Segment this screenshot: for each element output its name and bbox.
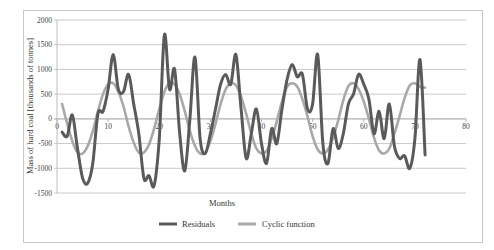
x-tick-label: 0: [55, 122, 59, 131]
x-tick-label: 80: [462, 122, 470, 131]
legend: Residuals Cyclic function: [159, 219, 315, 229]
y-tick-label: 0: [48, 114, 52, 123]
x-axis-title: Months: [209, 198, 235, 208]
y-tick-label: 500: [41, 90, 53, 99]
y-tick-label: -1000: [35, 164, 53, 173]
y-tick-label: 1000: [37, 65, 52, 74]
y-tick-label: -500: [38, 139, 52, 148]
y-axis-title: Mass of hard coal [thousands of tonnes]: [25, 38, 35, 174]
y-axis-ticks: 2000150010005000-500-1000-1500: [35, 16, 53, 198]
x-axis-ticks: 01020304050607080: [55, 119, 470, 131]
x-tick-label: 10: [104, 122, 112, 131]
legend-item-residuals[interactable]: Residuals: [159, 219, 215, 229]
y-tick-label: -1500: [35, 189, 53, 198]
line-chart: 2000150010005000-500-1000-1500 010203040…: [0, 0, 494, 250]
legend-label-residuals: Residuals: [182, 219, 215, 229]
legend-label-cyclic: Cyclic function: [262, 219, 315, 229]
y-tick-label: 1500: [37, 40, 52, 49]
y-tick-label: 2000: [37, 16, 52, 25]
x-tick-label: 60: [360, 122, 368, 131]
gridlines: [54, 20, 466, 193]
series-lines: [62, 34, 425, 187]
legend-item-cyclic[interactable]: Cyclic function: [238, 219, 315, 229]
residuals-line: [62, 34, 425, 187]
